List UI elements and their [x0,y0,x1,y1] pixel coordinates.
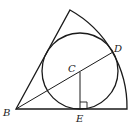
label-b: B [2,107,10,118]
label-d: D [113,43,122,54]
geometry-diagram: B C D E [0,0,136,129]
line-bd [16,52,113,109]
label-c: C [68,63,76,74]
label-e: E [75,113,84,124]
